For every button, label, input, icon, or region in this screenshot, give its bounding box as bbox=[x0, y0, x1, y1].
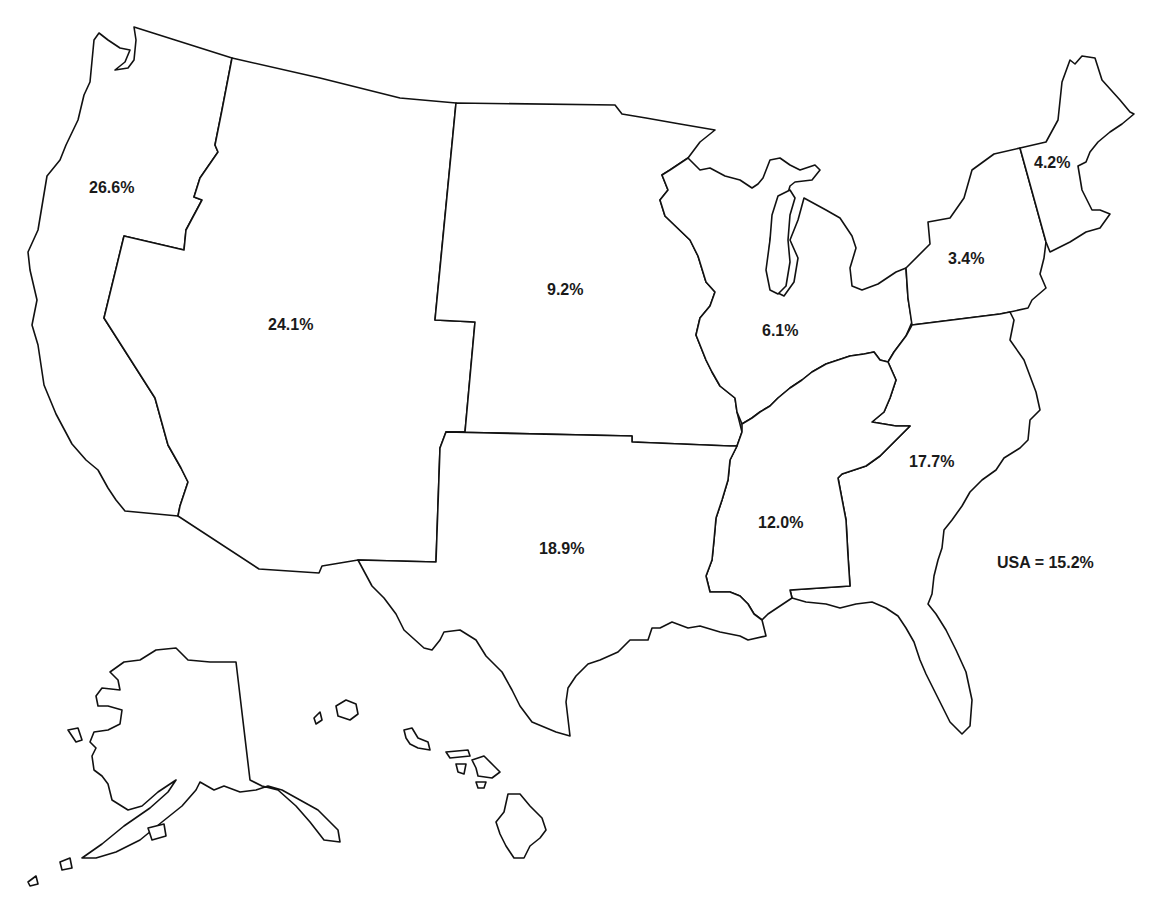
region-northern-plains bbox=[435, 103, 742, 446]
hawaii-island-big-island bbox=[496, 794, 546, 858]
hawaii-island-oahu bbox=[404, 728, 430, 750]
label-south-atlantic: 17.7% bbox=[909, 453, 954, 470]
region-mid-atlantic bbox=[906, 148, 1046, 325]
label-new-england: 4.2% bbox=[1034, 154, 1070, 171]
alaska-island-2 bbox=[60, 858, 72, 870]
usa-total-label: USA = 15.2% bbox=[997, 554, 1094, 571]
alaska-island-3 bbox=[28, 876, 38, 886]
alaska-island-1 bbox=[68, 728, 82, 742]
hawaii-island-maui bbox=[472, 756, 500, 778]
label-mountain-southwest: 24.1% bbox=[268, 316, 313, 333]
label-pacific-west: 26.6% bbox=[89, 179, 134, 196]
label-mid-atlantic: 3.4% bbox=[948, 250, 984, 267]
label-great-lakes: 6.1% bbox=[762, 322, 798, 339]
inset-alaska bbox=[82, 648, 340, 858]
hawaii-island-kahoolawe bbox=[476, 782, 486, 788]
hawaii-island-kauai bbox=[336, 700, 358, 720]
hawaii-island-lanai bbox=[456, 764, 466, 774]
label-northern-plains: 9.2% bbox=[547, 281, 583, 298]
us-regional-map: 26.6% 24.1% 9.2% 6.1% 4.2% 3.4% 17.7% 12… bbox=[0, 0, 1150, 899]
hawaii-island-niihau bbox=[314, 712, 322, 724]
label-south-central: 12.0% bbox=[758, 514, 803, 531]
hawaii-island-molokai bbox=[446, 750, 470, 758]
label-southern-plains: 18.9% bbox=[539, 540, 584, 557]
